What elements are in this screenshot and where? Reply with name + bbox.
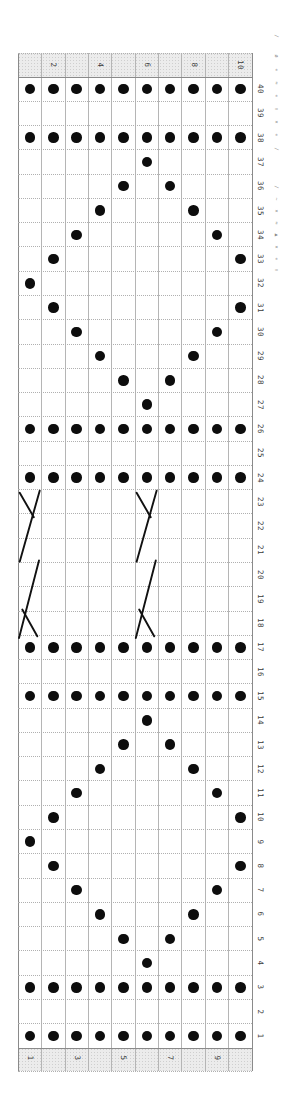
k-cross-cable-symbol	[136, 561, 156, 639]
legend-mark: «	[274, 257, 279, 260]
legend-mark: ∕	[274, 34, 279, 37]
row-label: 9	[256, 839, 264, 844]
row-label: 7	[256, 888, 264, 893]
row-label: 37	[256, 157, 264, 167]
row-label: 38	[256, 133, 264, 143]
row-label: 5	[256, 936, 264, 941]
row-label: 24	[256, 473, 264, 483]
row-label: 8	[256, 863, 264, 868]
column-label-top: 2	[50, 62, 58, 67]
row-label: 27	[256, 400, 264, 410]
row-label: 18	[256, 618, 264, 628]
row-label: 30	[256, 327, 264, 337]
row-label: 21	[256, 545, 264, 555]
legend-mark: ≈	[274, 221, 279, 224]
row-label: 39	[256, 108, 264, 118]
column-label-bottom: 1	[26, 1055, 34, 1060]
legend-mark: ø	[274, 54, 279, 57]
legend-mark: «	[274, 94, 279, 97]
k-cross-cable-symbol	[19, 561, 39, 639]
row-label: 28	[256, 375, 264, 385]
row-label: 32	[256, 278, 264, 288]
legend-mark: ×	[274, 245, 279, 248]
column-label-top: 10	[237, 60, 245, 70]
row-label: 11	[256, 788, 264, 798]
legend-mark: «	[274, 133, 279, 136]
knitting-chart: 2468101357940393837363534333231302928272…	[0, 0, 286, 1117]
row-label: 1	[256, 1033, 264, 1038]
legend-mark: ≈	[274, 81, 279, 84]
row-label: 40	[256, 84, 264, 94]
column-label-bottom: 9	[213, 1055, 221, 1060]
legend-mark: ∕	[274, 185, 279, 188]
row-label: 15	[256, 691, 264, 701]
row-label: 16	[256, 667, 264, 677]
column-label-bottom: 7	[166, 1055, 174, 1060]
y-cross-cable-symbol	[20, 491, 40, 562]
column-label-bottom: 3	[73, 1055, 81, 1060]
column-label-top: 4	[96, 62, 104, 67]
row-label: 12	[256, 764, 264, 774]
legend-mark: ~	[274, 197, 279, 200]
legend-mark: «	[274, 68, 279, 71]
legend-mark: ∧	[274, 268, 279, 271]
row-label: 14	[256, 715, 264, 725]
y-cross-cable-symbol	[137, 491, 157, 562]
legend-mark: ▲	[274, 233, 279, 236]
row-label: 25	[256, 448, 264, 458]
row-label: 19	[256, 594, 264, 604]
row-label: 31	[256, 303, 264, 313]
column-label-top: 6	[143, 62, 151, 67]
row-label: 6	[256, 912, 264, 917]
row-label: 26	[256, 424, 264, 434]
row-label: 20	[256, 570, 264, 580]
row-label: 17	[256, 642, 264, 652]
row-label: 10	[256, 812, 264, 822]
column-label-bottom: 5	[120, 1055, 128, 1060]
row-label: 4	[256, 961, 264, 966]
column-label-top: 8	[190, 62, 198, 67]
row-label: 3	[256, 985, 264, 990]
row-label: 34	[256, 230, 264, 240]
legend-mark: ×	[274, 120, 279, 123]
cable-symbols-layer	[0, 0, 286, 1117]
row-label: 36	[256, 181, 264, 191]
row-label: 22	[256, 521, 264, 531]
row-label: 33	[256, 254, 264, 264]
row-label: 29	[256, 351, 264, 361]
row-label: 13	[256, 740, 264, 750]
legend-mark: ∧	[274, 107, 279, 110]
row-label: 35	[256, 205, 264, 215]
row-label: 2	[256, 1009, 264, 1014]
legend-mark: ×	[274, 209, 279, 212]
row-label: 23	[256, 497, 264, 507]
legend-mark: ∕	[274, 147, 279, 150]
